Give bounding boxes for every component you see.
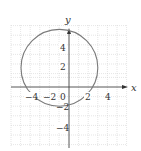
y-tick-label: −4 [56, 123, 70, 133]
x-tick-label: 0 [60, 92, 66, 102]
x-tick-label: 4 [105, 92, 111, 102]
x-tick-label: −4 [25, 92, 39, 102]
y-tick-label: −2 [56, 102, 69, 112]
x-tick-label: −2 [43, 92, 56, 102]
x-axis-label: x [131, 82, 137, 93]
y-axis-label: y [64, 14, 71, 25]
y-tick-label: 4 [60, 43, 66, 53]
y-tick-label: 2 [60, 62, 66, 72]
chart-svg: y x −4 −2 0 2 4 4 2 −2 −4 [0, 0, 141, 151]
y-tick-labels: 4 2 −2 −4 [55, 42, 70, 133]
x-axis-arrow-icon [122, 85, 128, 89]
x-tick-label: 2 [85, 92, 91, 102]
